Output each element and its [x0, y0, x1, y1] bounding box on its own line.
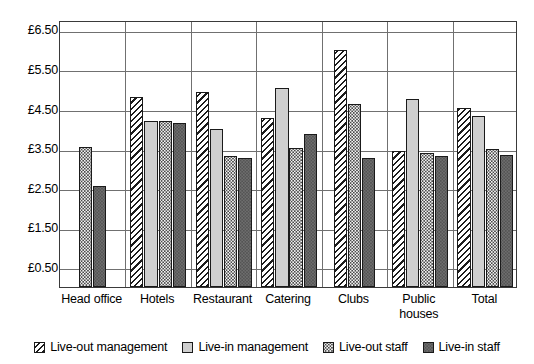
legend-item[interactable]: Live-in staff [423, 341, 500, 354]
bar [472, 116, 485, 287]
legend-swatch-icon [423, 342, 434, 353]
y-tick-label: £1.50 [4, 222, 58, 235]
x-tick-label-line: Hotels [124, 292, 189, 307]
legend-swatch-icon [323, 342, 334, 353]
legend-label: Live-out management [50, 341, 167, 354]
x-axis: Head officeHotelsRestaurantCateringClubs… [59, 292, 517, 332]
bar [500, 155, 513, 287]
bar [486, 149, 499, 287]
x-tick-label-line: Clubs [321, 292, 386, 307]
y-axis: £0.50£1.50£2.50£3.50£4.50£5.50£6.50 [0, 0, 58, 300]
x-tick-label: Restaurant [190, 292, 255, 307]
y-tick-label: £5.50 [4, 64, 58, 77]
x-tick-label-line: Restaurant [190, 292, 255, 307]
legend-swatch-icon [182, 342, 193, 353]
y-tick-label: £4.50 [4, 104, 58, 117]
x-tick-label: Hotels [124, 292, 189, 307]
legend-swatch-icon [34, 342, 45, 353]
x-tick-label: Head office [59, 292, 124, 307]
bar-group [60, 22, 518, 287]
plot-area [59, 21, 517, 288]
y-tick-label: £2.50 [4, 183, 58, 196]
legend-item[interactable]: Live-out staff [323, 341, 408, 354]
x-tick-label-line: Public [386, 292, 451, 307]
legend-label: Live-in staff [439, 341, 500, 354]
legend-label: Live-out staff [339, 341, 408, 354]
legend-label: Live-in management [198, 341, 308, 354]
bar [457, 108, 470, 287]
x-tick-label-line: Head office [59, 292, 124, 307]
x-tick-label-line: Catering [255, 292, 320, 307]
legend-item[interactable]: Live-out management [34, 341, 167, 354]
x-tick-label-line: houses [386, 307, 451, 322]
x-tick-label: Publichouses [386, 292, 451, 321]
chart-legend: Live-out managementLive-in managementLiv… [0, 336, 534, 358]
x-tick-label-line: Total [452, 292, 517, 307]
bar-chart: £0.50£1.50£2.50£3.50£4.50£5.50£6.50 Head… [0, 0, 534, 364]
y-tick-label: £3.50 [4, 143, 58, 156]
legend-item[interactable]: Live-in management [182, 341, 308, 354]
x-tick-label: Total [452, 292, 517, 307]
y-tick-label: £0.50 [4, 262, 58, 275]
x-tick-label: Catering [255, 292, 320, 307]
y-tick-label: £6.50 [4, 24, 58, 37]
x-tick-label: Clubs [321, 292, 386, 307]
